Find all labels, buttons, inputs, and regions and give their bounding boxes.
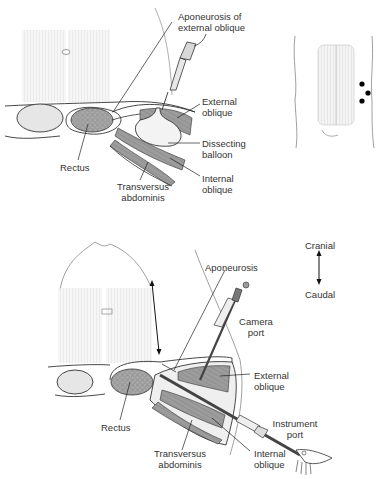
inset-torso	[294, 36, 374, 148]
label-internal-oblique: Internaloblique	[202, 173, 234, 195]
port-marker	[359, 98, 364, 103]
label-rectus-bottom: Rectus	[101, 422, 131, 433]
anatomical-diagram: Aponeurosis ofexternal oblique Externalo…	[0, 0, 384, 479]
label-caudal: Caudal	[305, 289, 335, 300]
port-marker	[359, 81, 364, 86]
port-marker	[365, 90, 370, 95]
top-cross-section	[5, 8, 206, 186]
label-internal-oblique-bottom: Internaloblique	[254, 448, 286, 470]
label-aponeurosis-external-oblique: Aponeurosis ofexternal oblique	[178, 11, 245, 33]
label-camera-port: Cameraport	[236, 316, 276, 338]
bottom-cross-section	[48, 242, 332, 475]
label-transversus-abdominis: Transversusabdominis	[113, 181, 173, 203]
label-rectus: Rectus	[60, 162, 90, 173]
label-instrument-port: Instrumentport	[270, 418, 320, 440]
label-transversus-abdominis-bottom: Transversusabdominis	[150, 448, 210, 470]
label-dissecting-balloon: Dissectingballoon	[202, 138, 246, 160]
label-cranial: Cranial	[305, 240, 335, 251]
label-external-oblique: Externaloblique	[202, 96, 237, 118]
label-aponeurosis: Aponeurosis	[205, 262, 258, 273]
label-external-oblique-bottom: Externaloblique	[254, 370, 289, 392]
